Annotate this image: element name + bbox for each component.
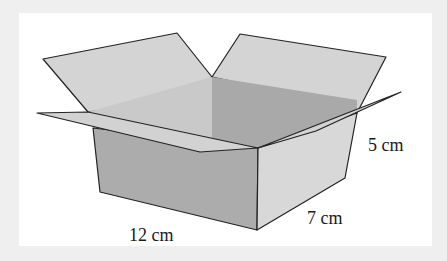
open-box-diagram — [0, 0, 447, 261]
height-label: 5 cm — [368, 136, 404, 154]
width-label: 7 cm — [307, 209, 343, 227]
length-label: 12 cm — [129, 226, 174, 244]
